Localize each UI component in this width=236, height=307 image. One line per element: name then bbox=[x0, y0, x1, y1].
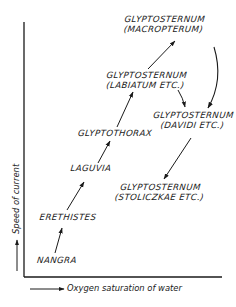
node-label-line: ERETHISTES bbox=[37, 212, 98, 222]
node-glyptosternum-labiatum: GLYPTOSTERNUM (LABIATUM ETC.) bbox=[105, 70, 187, 90]
node-label-line: (DAVIDI ETC.) bbox=[151, 120, 234, 130]
node-glyptothorax: GLYPTOTHORAX bbox=[77, 128, 148, 138]
arrow-macropterum-to-davidi bbox=[208, 47, 218, 108]
arrow-laguvia-to-glyptothorax bbox=[98, 141, 110, 163]
arrow-erethistes-to-laguvia bbox=[67, 182, 84, 210]
arrow-nangra-to-erethistes bbox=[55, 228, 62, 253]
arrow-davidi-to-stoliczkae bbox=[164, 138, 191, 179]
node-label-line: NANGRA bbox=[33, 255, 80, 265]
x-axis-label: Oxygen saturation of water bbox=[67, 283, 182, 293]
node-label-line: LAGUVIA bbox=[65, 163, 116, 173]
node-label-line: (STOLICZKAE ETC.) bbox=[111, 192, 208, 202]
node-glyptosternum-davidi: GLYPTOSTERNUM (DAVIDI ETC.) bbox=[151, 110, 235, 130]
y-axis-label: Speed of current bbox=[11, 164, 21, 234]
node-label-line: GLYPTOSTERNUM bbox=[112, 182, 209, 192]
node-label-line: GLYPTOSTERNUM bbox=[106, 70, 187, 80]
node-label-line: (MACROPTERUM) bbox=[123, 24, 204, 34]
node-laguvia: LAGUVIA bbox=[65, 163, 116, 173]
node-nangra: NANGRA bbox=[33, 255, 80, 265]
node-glyptosternum-macropterum: GLYPTOSTERNUM (MACROPTERUM) bbox=[123, 14, 205, 34]
node-label-line: (LABIATUM ETC.) bbox=[105, 80, 186, 90]
node-glyptosternum-stoliczkae: GLYPTOSTERNUM (STOLICZKAE ETC.) bbox=[111, 182, 209, 202]
node-label-line: GLYPTOTHORAX bbox=[77, 128, 148, 138]
arrow-labiatum-to-macropterum bbox=[148, 41, 175, 69]
arrow-labiatum-to-davidi bbox=[178, 90, 185, 107]
node-erethistes: ERETHISTES bbox=[37, 212, 98, 222]
node-label-line: GLYPTOSTERNUM bbox=[124, 14, 205, 24]
arrow-glyptothorax-to-labiatum bbox=[117, 92, 133, 127]
node-label-line: GLYPTOSTERNUM bbox=[152, 110, 235, 120]
